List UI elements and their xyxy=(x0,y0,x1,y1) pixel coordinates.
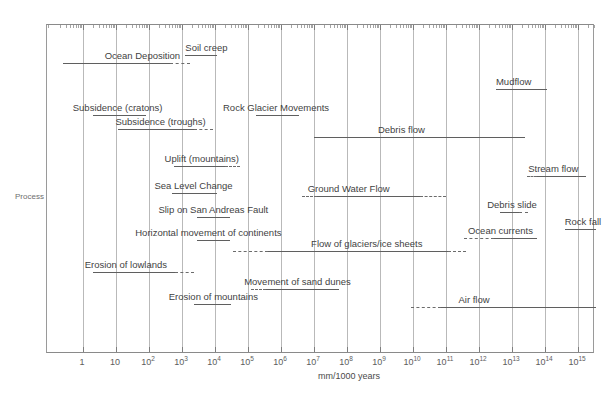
range-bar xyxy=(302,196,317,197)
axis-tick-minor xyxy=(48,25,49,28)
axis-tick-major xyxy=(281,347,282,352)
axis-tick-minor xyxy=(198,25,199,28)
axis-tick-minor xyxy=(345,25,346,28)
axis-tick-minor xyxy=(235,25,236,28)
axis-tick-minor xyxy=(576,25,577,28)
process-label: Debris flow xyxy=(378,124,425,135)
axis-tick-minor xyxy=(301,25,302,28)
gridline xyxy=(413,25,414,352)
range-bar xyxy=(565,229,596,230)
axis-tick-major xyxy=(512,25,513,30)
axis-tick-minor xyxy=(433,25,434,28)
axis-tick-minor xyxy=(103,25,104,28)
x-axis-tick-label: 1010 xyxy=(403,357,420,367)
x-axis-tick-label: 1 xyxy=(79,357,84,367)
x-axis-tick-label: 107 xyxy=(306,357,320,367)
range-bar xyxy=(519,212,529,213)
x-axis-title: mm/1000 years xyxy=(318,371,380,381)
axis-tick-minor xyxy=(571,25,572,28)
range-bar xyxy=(317,196,419,197)
axis-tick-minor xyxy=(400,25,401,28)
axis-tick-minor xyxy=(106,25,107,28)
axis-tick-minor xyxy=(60,25,61,28)
axis-tick-minor xyxy=(111,25,112,28)
axis-tick-major xyxy=(578,347,579,352)
range-bar xyxy=(251,289,266,290)
x-axis-tick-label: 103 xyxy=(174,357,188,367)
axis-tick-minor xyxy=(370,25,371,28)
axis-tick-major xyxy=(215,25,216,30)
axis-tick-minor xyxy=(175,25,176,28)
range-bar xyxy=(527,176,537,177)
process-label: Rock fall xyxy=(565,216,601,227)
axis-tick-minor xyxy=(469,25,470,28)
plot-area: Soil creepOcean DepositionMudflowSubside… xyxy=(46,24,594,353)
axis-tick-major xyxy=(215,347,216,352)
range-bar xyxy=(170,63,190,64)
axis-tick-minor xyxy=(375,25,376,28)
axis-tick-minor xyxy=(246,25,247,28)
axis-tick-minor xyxy=(462,25,463,28)
axis-tick-major xyxy=(83,347,84,352)
axis-tick-minor xyxy=(456,25,457,28)
process-label: Slip on San Andreas Fault xyxy=(158,204,268,215)
range-bar xyxy=(233,251,268,252)
axis-tick-major xyxy=(248,25,249,30)
axis-tick-minor xyxy=(312,25,313,28)
axis-tick-minor xyxy=(334,25,335,28)
axis-tick-minor xyxy=(93,25,94,28)
axis-tick-major xyxy=(479,25,480,30)
axis-tick-minor xyxy=(139,25,140,28)
axis-tick-minor xyxy=(205,25,206,28)
range-bar xyxy=(411,307,441,308)
axis-tick-minor xyxy=(390,25,391,28)
range-bar xyxy=(537,176,587,177)
range-bar xyxy=(63,63,170,64)
gridline xyxy=(116,25,117,352)
axis-tick-minor xyxy=(81,25,82,28)
process-label: Stream flow xyxy=(528,163,578,174)
axis-tick-minor xyxy=(532,25,533,28)
axis-tick-minor xyxy=(403,25,404,28)
axis-tick-minor xyxy=(258,25,259,28)
axis-tick-minor xyxy=(538,25,539,28)
axis-tick-minor xyxy=(588,25,589,28)
process-label: Rock Glacier Movements xyxy=(223,102,329,113)
range-bar xyxy=(256,115,299,116)
range-bar xyxy=(441,307,596,308)
axis-tick-minor xyxy=(505,25,506,28)
range-bar xyxy=(225,166,240,167)
process-label: Air flow xyxy=(458,294,489,305)
axis-tick-minor xyxy=(594,25,595,28)
axis-tick-minor xyxy=(502,25,503,28)
axis-tick-minor xyxy=(540,25,541,28)
x-axis-tick-label: 109 xyxy=(372,357,386,367)
process-label: Uplift (mountains) xyxy=(165,153,239,164)
range-bar xyxy=(185,55,216,56)
range-bar xyxy=(494,238,537,239)
axis-tick-minor xyxy=(114,25,115,28)
process-label: Soil creep xyxy=(185,42,227,53)
range-bar xyxy=(118,129,194,130)
gridline xyxy=(446,25,447,352)
axis-tick-major xyxy=(149,347,150,352)
axis-tick-minor xyxy=(573,25,574,28)
x-axis-tick-label: 1012 xyxy=(469,357,486,367)
axis-tick-minor xyxy=(241,25,242,28)
gridline xyxy=(578,25,579,352)
axis-tick-minor xyxy=(535,25,536,28)
axis-tick-minor xyxy=(297,25,298,28)
axis-tick-minor xyxy=(142,25,143,28)
x-axis-tick-label: 102 xyxy=(141,357,155,367)
axis-tick-minor xyxy=(172,25,173,28)
axis-tick-minor xyxy=(373,25,374,28)
axis-tick-minor xyxy=(507,25,508,28)
axis-tick-minor xyxy=(408,25,409,28)
axis-tick-major xyxy=(347,347,348,352)
axis-tick-major xyxy=(182,347,183,352)
gridline xyxy=(149,25,150,352)
axis-tick-major xyxy=(314,25,315,30)
axis-tick-minor xyxy=(444,25,445,28)
axis-tick-major xyxy=(149,25,150,30)
axis-tick-minor xyxy=(70,25,71,28)
